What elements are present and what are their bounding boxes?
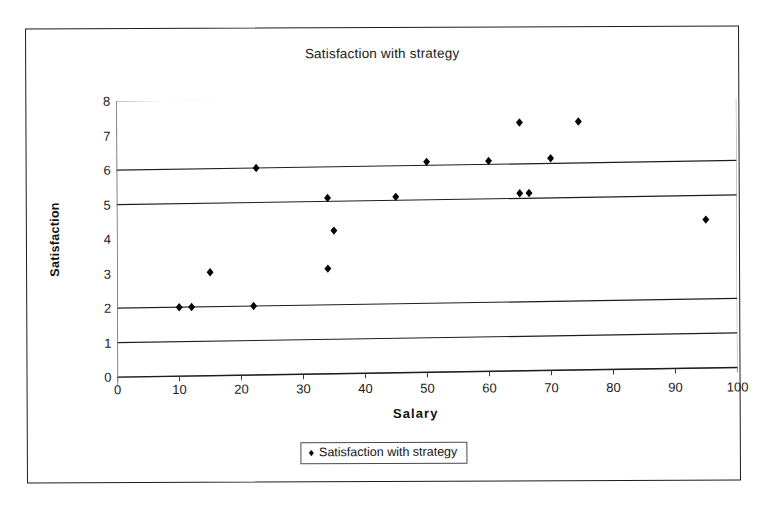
x-axis-tick-label: 40 <box>358 382 373 395</box>
data-point <box>324 264 331 272</box>
x-axis-tick-label: 30 <box>296 382 311 395</box>
data-point <box>188 303 195 311</box>
x-axis-tick-label: 100 <box>727 380 749 393</box>
y-axis-tick-label: 5 <box>104 198 111 211</box>
x-axis-tick-label: 70 <box>544 381 559 394</box>
plot-canvas <box>116 98 737 377</box>
legend-series-label: Satisfaction with strategy <box>319 446 457 459</box>
y-axis-tick-label: 8 <box>103 95 110 108</box>
gridline <box>117 195 737 205</box>
data-point <box>575 117 582 125</box>
data-point <box>330 226 337 234</box>
x-axis-tick-label: 90 <box>668 381 683 394</box>
data-point <box>516 118 523 126</box>
chart-legend: ♦ Satisfaction with strategy <box>300 442 467 464</box>
x-axis-tick-label: 80 <box>606 381 621 394</box>
x-axis-title: Salary <box>90 404 742 422</box>
y-axis-tick-label: 7 <box>103 129 110 142</box>
y-axis-tick-label: 0 <box>104 371 111 384</box>
data-point <box>547 154 554 162</box>
plot-area: Satisfaction 012345678 01020304050607080… <box>88 98 741 411</box>
data-point <box>526 189 533 197</box>
y-axis-tick-label: 3 <box>104 267 111 280</box>
plot-frame <box>116 98 737 377</box>
scanned-page: Satisfaction with strategy Satisfaction … <box>0 0 772 515</box>
y-axis-tick-label: 6 <box>103 164 110 177</box>
legend-diamond-icon: ♦ <box>308 447 314 458</box>
y-axis-tick-labels: 012345678 <box>88 101 113 377</box>
data-point <box>253 164 260 172</box>
y-axis-spine <box>116 98 117 387</box>
x-axis-tick-label: 20 <box>234 383 249 396</box>
y-axis-tick-label: 1 <box>104 336 111 349</box>
data-point <box>207 268 214 276</box>
data-point <box>176 303 183 311</box>
gridline <box>117 333 737 343</box>
x-axis-tick-label: 50 <box>420 382 435 395</box>
x-axis-tick-label: 60 <box>482 382 497 395</box>
gridline <box>117 298 737 308</box>
x-axis-tick-label: 10 <box>172 383 187 396</box>
chart-frame: Satisfaction with strategy Satisfaction … <box>25 25 741 483</box>
data-point <box>250 302 257 310</box>
y-axis-tick-label: 4 <box>104 233 111 246</box>
x-axis-tick-label: 0 <box>114 383 121 396</box>
y-axis-tick-label: 2 <box>104 302 111 315</box>
y-axis-title: Satisfaction <box>48 202 62 277</box>
x-axis-tick-labels: 0102030405060708090100 <box>118 380 738 403</box>
chart-title: Satisfaction with strategy <box>26 44 738 62</box>
data-point <box>702 215 709 223</box>
plot-svg <box>116 98 737 391</box>
data-point <box>516 189 523 197</box>
